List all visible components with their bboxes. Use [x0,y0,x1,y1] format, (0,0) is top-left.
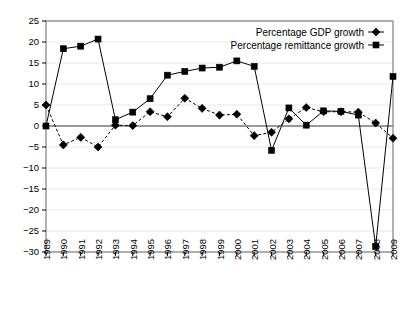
plot-background [46,21,393,252]
data-point-square [130,109,136,115]
x-tick-label: 1998 [197,239,208,260]
data-point-square [182,68,188,74]
x-tick-label: 2005 [319,239,330,260]
x-tick-label: 2004 [301,239,312,260]
y-tick-label: −25 [23,225,39,236]
legend-label-0: Percentage GDP growth [256,27,364,38]
x-tick-label: 2007 [353,239,364,260]
x-tick-label: 2008 [371,239,382,260]
x-tick-label: 1997 [180,239,191,260]
y-tick-label: 15 [28,57,39,68]
x-tick-label: 1991 [76,239,87,260]
y-tick-label: 20 [28,36,39,47]
legend-label-1: Percentage remittance growth [231,40,364,51]
data-point-square [355,112,361,118]
x-tick-label: 1992 [93,239,104,260]
x-tick-label: 2000 [232,239,243,260]
data-point-square [60,46,66,52]
data-point-square [269,147,275,153]
data-point-square [303,122,309,128]
x-axis-tick-labels: 1989199019911992199319941995199619971998… [41,239,399,260]
growth-line-chart: 2520151050−5−10−15−20−25−30 198919901991… [0,0,410,323]
y-tick-label: 0 [34,120,39,131]
data-point-square [95,36,101,42]
x-tick-label: 1995 [145,239,156,260]
data-point-square [217,64,223,70]
x-tick-label: 2001 [249,239,260,260]
data-point-square [373,42,379,48]
data-point-square [338,108,344,114]
data-point-square [286,105,292,111]
y-tick-label: 25 [28,15,39,26]
x-tick-label: 1996 [162,239,173,260]
x-tick-label: 2009 [388,239,399,260]
y-tick-label: 10 [28,78,39,89]
x-tick-label: 1994 [128,239,139,260]
y-tick-label: −20 [23,204,39,215]
x-tick-label: 1999 [215,239,226,260]
data-point-square [321,108,327,114]
chart-container: 2520151050−5−10−15−20−25−30 198919901991… [0,0,410,323]
x-tick-label: 2002 [267,239,278,260]
data-point-square [112,117,118,123]
data-point-square [78,43,84,49]
x-tick-label: 2006 [336,239,347,260]
x-tick-label: 2003 [284,239,295,260]
y-tick-label: −30 [23,246,39,257]
x-tick-label: 1990 [58,239,69,260]
data-point-square [199,65,205,71]
y-tick-label: 5 [34,99,39,110]
x-tick-label: 1993 [110,239,121,260]
data-point-square [234,58,240,64]
y-tick-label: −5 [28,141,39,152]
data-point-square [164,72,170,78]
data-point-square [251,63,257,69]
data-point-square [43,123,49,129]
data-point-square [147,96,153,102]
y-tick-label: −10 [23,162,39,173]
data-point-square [390,73,396,79]
y-tick-label: −15 [23,183,39,194]
y-axis-tick-labels: 2520151050−5−10−15−20−25−30 [23,15,39,257]
x-tick-label: 1989 [41,239,52,260]
